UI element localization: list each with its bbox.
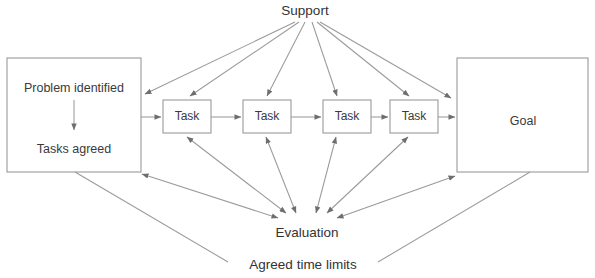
edge-support-to-task-1 — [190, 22, 299, 96]
edge-support-to-problem-box — [145, 22, 295, 94]
evaluation-side-edges — [142, 174, 455, 218]
support-label: Support — [281, 3, 329, 18]
time-limits-edges — [75, 172, 530, 262]
edge-support-to-task-3 — [312, 22, 337, 96]
edge-support-to-goal-box — [320, 22, 451, 98]
tasks-agreed-label: Tasks agreed — [37, 142, 111, 156]
evaluation-task-edges — [187, 137, 408, 213]
edge-time-limits-to-problem-box — [75, 172, 228, 262]
task-label-1: Task — [175, 109, 201, 123]
edge-evaluation-task-4 — [327, 137, 408, 213]
edge-evaluation-task-1 — [187, 137, 286, 213]
edge-time-limits-to-goal-box — [378, 172, 530, 262]
process-flow-diagram: Problem identified Tasks agreed Task Tas… — [0, 0, 595, 278]
problem-identified-label: Problem identified — [24, 81, 124, 95]
goal-label: Goal — [510, 114, 536, 128]
diagram-canvas: Problem identified Tasks agreed Task Tas… — [0, 0, 595, 278]
task-label-2: Task — [255, 109, 281, 123]
edge-evaluation-task-3 — [316, 137, 336, 213]
edge-evaluation-problem-box — [142, 174, 278, 218]
evaluation-label: Evaluation — [275, 225, 338, 240]
edge-support-to-task-4 — [317, 22, 409, 96]
agreed-time-limits-label: Agreed time limits — [249, 257, 357, 272]
edge-evaluation-goal-box — [337, 176, 455, 218]
task-label-3: Task — [335, 109, 361, 123]
support-edges — [145, 22, 451, 98]
task-label-4: Task — [402, 109, 428, 123]
